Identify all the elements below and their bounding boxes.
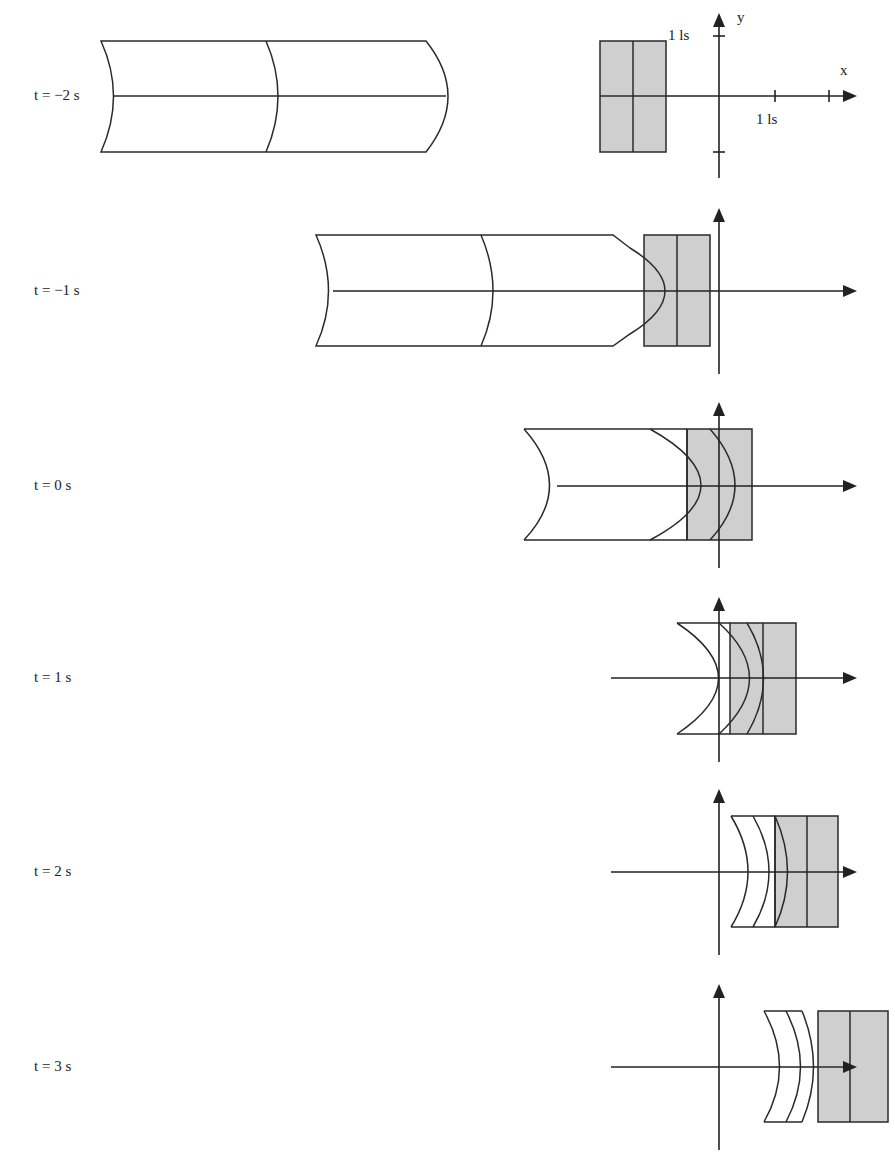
- axes: [611, 789, 857, 955]
- y-axis-arrow-icon: [713, 984, 725, 998]
- frame-t-2: [611, 789, 857, 955]
- x-axis-arrow-icon: [843, 672, 857, 684]
- y-tick-label: 1 ls: [668, 27, 689, 43]
- frame-t-minus-1: [316, 208, 857, 374]
- y-axis-arrow-icon: [713, 208, 725, 222]
- y-axis-label: y: [737, 9, 745, 25]
- axes: [333, 208, 857, 374]
- frame-t-minus-2: 1 ls 1 ls y x: [101, 9, 857, 178]
- frame-t-3: [611, 984, 888, 1150]
- x-axis-arrow-icon: [843, 866, 857, 878]
- moving-object: [101, 41, 448, 152]
- y-axis-arrow-icon: [713, 402, 725, 416]
- frame-t-0: [524, 402, 857, 568]
- stationary-box: [818, 1011, 888, 1122]
- y-axis-arrow-icon: [713, 13, 725, 27]
- x-axis-arrow-icon: [843, 480, 857, 492]
- y-axis-arrow-icon: [713, 789, 725, 803]
- x-tick-label: 1 ls: [756, 111, 777, 127]
- spacetime-diagram: 1 ls 1 ls y x: [0, 0, 895, 1170]
- x-axis-arrow-icon: [843, 285, 857, 297]
- y-axis-arrow-icon: [713, 597, 725, 611]
- stationary-box: [600, 41, 666, 152]
- x-axis-arrow-icon: [843, 90, 857, 102]
- axes: [611, 984, 846, 1150]
- x-axis-label: x: [840, 62, 848, 78]
- frame-t-1: [611, 597, 857, 762]
- axes: 1 ls 1 ls y x: [666, 9, 857, 178]
